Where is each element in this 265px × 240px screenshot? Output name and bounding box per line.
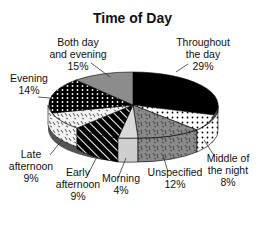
label-throughout-the-day: Throughout the day 29% — [168, 36, 238, 72]
label-early-afternoon: Early afternoon 9% — [52, 166, 104, 202]
label-both-day-and-evening: Both day and evening 15% — [42, 36, 114, 72]
label-middle-of-the-night: Middle of the night 8% — [202, 152, 254, 188]
label-evening: Evening 14% — [4, 72, 54, 96]
label-late-afternoon: Late afternoon 9% — [6, 148, 56, 184]
label-unspecified: Unspecified 12% — [144, 166, 206, 190]
morning-side — [118, 138, 138, 162]
label-morning: Morning 4% — [100, 172, 142, 196]
